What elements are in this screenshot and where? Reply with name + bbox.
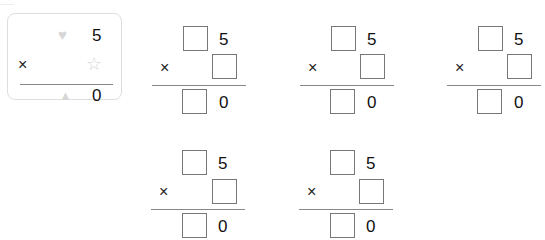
answer-rule [447, 85, 541, 86]
times-sign: × [455, 60, 464, 76]
result-digit-box[interactable] [182, 89, 207, 114]
top-digit: 5 [367, 31, 376, 48]
result-digit-box[interactable] [477, 89, 502, 114]
heart-icon: ♥ [58, 27, 67, 42]
top-digit: 5 [514, 31, 523, 48]
answer-rule [299, 209, 393, 210]
cropped-label-mark [0, 0, 14, 5]
top-digit-box[interactable] [182, 150, 207, 175]
problem-4: 5 × 0 [151, 150, 251, 240]
example-times-sign: × [18, 57, 27, 73]
example-top-digit: 5 [92, 27, 101, 44]
result-digit: 0 [514, 94, 523, 111]
example-card: ♥ 5 × ☆ ▲ 0 [7, 13, 122, 100]
problem-1: 5 × 0 [152, 26, 252, 126]
problem-2: 5 × 0 [300, 26, 400, 126]
result-digit-box[interactable] [330, 213, 355, 238]
times-sign: × [160, 60, 169, 76]
multiplier-box[interactable] [212, 54, 237, 79]
problem-3: 5 × 0 [447, 26, 545, 126]
times-sign: × [159, 184, 168, 200]
top-digit: 5 [366, 155, 375, 172]
result-digit-box[interactable] [182, 213, 207, 238]
top-digit: 5 [219, 31, 228, 48]
multiplier-box[interactable] [359, 179, 384, 204]
times-sign: × [308, 60, 317, 76]
top-digit: 5 [218, 155, 227, 172]
top-digit-box[interactable] [478, 26, 503, 51]
answer-rule [152, 85, 246, 86]
example-result-digit: 0 [92, 87, 101, 104]
top-digit-box[interactable] [183, 26, 208, 51]
multiplier-box[interactable] [212, 179, 237, 204]
star-icon: ☆ [86, 55, 102, 73]
result-digit: 0 [366, 218, 375, 235]
result-digit: 0 [367, 94, 376, 111]
times-sign: × [307, 184, 316, 200]
example-rule [20, 84, 113, 85]
result-digit-box[interactable] [330, 89, 355, 114]
top-digit-box[interactable] [330, 150, 355, 175]
multiplier-box[interactable] [507, 54, 532, 79]
result-digit: 0 [219, 94, 228, 111]
answer-rule [151, 209, 245, 210]
triangle-icon: ▲ [59, 89, 72, 102]
problem-5: 5 × 0 [299, 150, 399, 240]
result-digit: 0 [218, 218, 227, 235]
answer-rule [300, 85, 394, 86]
multiplier-box[interactable] [360, 54, 385, 79]
top-digit-box[interactable] [331, 26, 356, 51]
